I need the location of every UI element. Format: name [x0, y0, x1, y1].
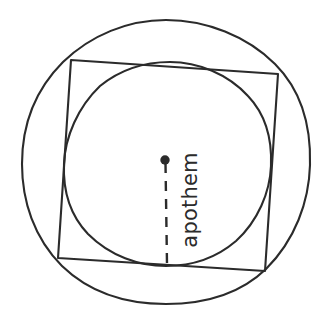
apothem-label: apothem — [178, 152, 202, 247]
geometry-figure: apothem — [0, 0, 327, 329]
diagram-background — [0, 0, 327, 329]
center-point-dot — [160, 155, 169, 164]
diagram-canvas: apothem — [0, 0, 327, 329]
